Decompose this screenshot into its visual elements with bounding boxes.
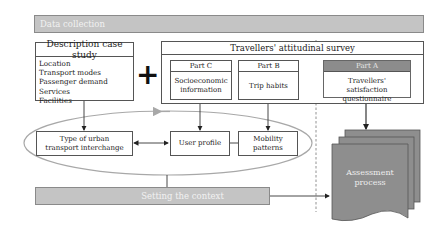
mobility-patterns-box: Mobility patterns (238, 131, 298, 156)
setting-context-bar: Setting the context (35, 187, 270, 205)
case-study-box: Description case study Location Transpor… (35, 42, 134, 101)
list-item: Facilities (39, 96, 133, 105)
list-item: Passenger demand (39, 77, 133, 86)
assessment-label: Assessment process (334, 168, 406, 188)
list-item: Services (39, 87, 133, 96)
part-a-box: Part A Travellers' satisfaction question… (323, 60, 411, 98)
user-profile-label: User profile (179, 139, 221, 148)
plus-icon: + (136, 60, 158, 90)
part-b-header: Part B (239, 61, 298, 72)
part-b-box: Part B Trip habits (238, 60, 299, 100)
case-study-title: Description case study (36, 43, 133, 57)
case-study-list: Location Transport modes Passenger deman… (36, 57, 133, 105)
user-profile-box: User profile (170, 131, 230, 156)
data-collection-label: Data collection (40, 19, 105, 29)
data-collection-bar: Data collection (34, 15, 424, 33)
part-c-body: Socioeconomic information (171, 72, 231, 95)
part-b-body: Trip habits (239, 72, 298, 91)
interchange-type-label: Type of urban transport interchange (37, 135, 132, 153)
mobility-patterns-label: Mobility patterns (239, 135, 297, 153)
survey-title: Travellers' attitudinal survey (162, 42, 423, 55)
setting-context-label: Setting the context (141, 191, 224, 201)
list-item: Transport modes (39, 68, 133, 77)
part-c-header: Part C (171, 61, 231, 72)
part-a-body: Travellers' satisfaction questionnaire (324, 72, 410, 104)
part-c-box: Part C Socioeconomic information (170, 60, 232, 100)
interchange-type-box: Type of urban transport interchange (36, 131, 133, 156)
part-a-header: Part A (324, 61, 410, 72)
